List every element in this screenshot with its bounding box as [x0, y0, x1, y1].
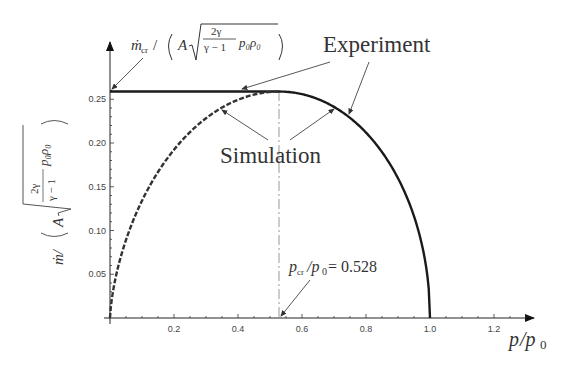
simulation-label: Simulation [220, 143, 321, 168]
x-tick-label: 0.6 [296, 324, 309, 334]
axes [104, 42, 534, 324]
svg-text:/p: /p [306, 258, 319, 276]
experiment-series [110, 92, 430, 318]
svg-text:γ − 1: γ − 1 [203, 41, 226, 53]
svg-text:2γ: 2γ [211, 25, 222, 37]
svg-text:γ − 1: γ − 1 [45, 179, 57, 202]
critical-massflow-label: ṁ cr / A 2γ γ − 1 p₀ρ₀ [131, 24, 283, 60]
x-tick-label: 0.4 [232, 324, 245, 334]
svg-text:0: 0 [540, 337, 547, 352]
x-ticks: 0.20.40.60.81.01.2 [126, 314, 526, 334]
x-tick-label: 1.2 [488, 324, 501, 334]
y-tick-label: 0.10 [88, 226, 106, 236]
simulation-series [110, 92, 278, 318]
x-tick-label: 0.2 [168, 324, 181, 334]
svg-text:= 0.528: = 0.528 [328, 258, 377, 275]
x-axis-label: p /p 0 [507, 328, 547, 352]
svg-text:0: 0 [322, 266, 327, 277]
svg-text:2γ: 2γ [28, 184, 40, 195]
svg-text:p: p [507, 328, 519, 351]
svg-text:/: / [153, 37, 158, 53]
svg-text:cr: cr [297, 267, 304, 277]
y-tick-label: 0.20 [88, 138, 106, 148]
y-tick-label: 0.15 [88, 182, 106, 192]
svg-text:A: A [177, 37, 188, 53]
chart-canvas: 0.20.40.60.81.01.2 0.050.100.150.200.25 … [0, 0, 586, 365]
x-tick-label: 1.0 [424, 324, 437, 334]
experiment-label: Experiment [323, 32, 431, 57]
svg-text:/p: /p [519, 328, 536, 351]
svg-text:p₀ρ₀: p₀ρ₀ [36, 144, 51, 167]
svg-text:p₀ρ₀: p₀ρ₀ [238, 35, 261, 50]
svg-text:p: p [288, 258, 297, 276]
critical-pressure-label: p cr /p 0 = 0.528 [288, 258, 377, 277]
x-tick-label: 0.8 [360, 324, 373, 334]
annotation-arrows [112, 58, 369, 316]
y-tick-label: 0.05 [88, 269, 106, 279]
svg-text:A: A [50, 217, 66, 228]
svg-text:ṁ/: ṁ/ [50, 248, 66, 265]
y-tick-label: 0.25 [88, 94, 106, 104]
y-axis-label: ṁ/ A 2γ γ − 1 p₀ρ₀ [23, 121, 71, 266]
svg-text:cr: cr [141, 45, 148, 55]
